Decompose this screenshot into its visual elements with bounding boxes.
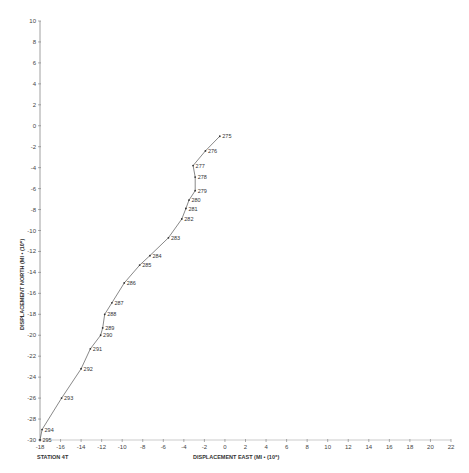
x-tick-label: -18 (36, 444, 45, 450)
y-tick-label: -30 (27, 437, 36, 443)
data-point-marker (123, 282, 125, 284)
x-tick-label: 2 (244, 444, 248, 450)
y-tick-label: -20 (27, 332, 36, 338)
data-point-label: 283 (171, 235, 180, 241)
x-tick-label: -2 (202, 444, 208, 450)
x-tick-label: 0 (223, 444, 227, 450)
data-point-label: 288 (107, 311, 116, 317)
y-tick-label: 2 (33, 102, 37, 108)
data-point-label: 295 (43, 437, 52, 443)
data-point-marker (194, 190, 196, 192)
data-point-label: 287 (114, 300, 123, 306)
y-tick-label: -8 (31, 207, 37, 213)
y-tick-label: -10 (27, 228, 36, 234)
y-tick-label: -6 (31, 186, 37, 192)
x-tick-label: 22 (448, 444, 455, 450)
data-point-label: 285 (142, 262, 151, 268)
y-tick-label: -24 (27, 374, 36, 380)
x-tick-label: 8 (305, 444, 309, 450)
data-point-label: 292 (84, 366, 93, 372)
x-axis-title: DISPLACEMENT EAST (MI • (10⁶) (193, 454, 280, 460)
x-tick-label: 10 (324, 444, 331, 450)
y-tick-label: -26 (27, 395, 36, 401)
x-tick-label: -4 (181, 444, 187, 450)
y-tick-label: 6 (33, 60, 37, 66)
data-point-marker (181, 218, 183, 220)
x-tick-label: 16 (386, 444, 393, 450)
data-point-label: 280 (191, 197, 200, 203)
x-tick-label: 14 (365, 444, 372, 450)
y-tick-label: 8 (33, 39, 37, 45)
data-point-marker (102, 327, 104, 329)
y-tick-label: 0 (33, 123, 37, 129)
data-point-marker (100, 334, 102, 336)
x-tick-label: -14 (77, 444, 86, 450)
data-point-marker (188, 199, 190, 201)
data-point-label: 279 (198, 188, 207, 194)
data-point-marker (185, 208, 187, 210)
axes: 1086420-2-4-6-8-10-12-14-16-18-20-22-24-… (27, 18, 455, 450)
x-tick-label: 18 (407, 444, 414, 450)
data-point-marker (39, 439, 41, 441)
y-tick-label: -18 (27, 311, 36, 317)
data-point-marker (139, 264, 141, 266)
x-tick-label: -16 (56, 444, 65, 450)
data-point-label: 286 (127, 280, 136, 286)
data-point-marker (61, 397, 63, 399)
y-tick-label: -12 (27, 248, 36, 254)
x-tick-label: -8 (140, 444, 146, 450)
data-point-label: 282 (184, 216, 193, 222)
x-tick-label: -10 (118, 444, 127, 450)
data-point-marker (192, 165, 194, 167)
data-point-label: 281 (188, 206, 197, 212)
data-point-label: 278 (198, 174, 207, 180)
y-axis-title: DISPLACEMENT NORTH (MI • (10⁶) (19, 239, 25, 330)
data-point-label: 294 (45, 427, 54, 433)
x-tick-label: 12 (345, 444, 352, 450)
y-tick-label: 4 (33, 81, 37, 87)
data-point-marker (104, 313, 106, 315)
data-point-marker (111, 302, 113, 304)
data-point-label: 277 (196, 163, 205, 169)
y-tick-label: -28 (27, 416, 36, 422)
data-point-label: 284 (152, 253, 161, 259)
data-point-label: 293 (64, 395, 73, 401)
data-point-label: 291 (93, 346, 102, 352)
x-tick-label: -12 (97, 444, 106, 450)
station-label: STATION 4T (37, 454, 69, 460)
data-point-labels: 2752762772782792802812822832842852862872… (39, 133, 231, 443)
x-tick-label: 6 (285, 444, 289, 450)
data-point-marker (219, 135, 221, 137)
data-point-marker (149, 255, 151, 257)
y-tick-label: -22 (27, 353, 36, 359)
data-point-label: 289 (105, 325, 114, 331)
y-tick-label: 10 (29, 18, 36, 24)
x-tick-label: 20 (427, 444, 434, 450)
x-tick-label: 4 (264, 444, 268, 450)
data-point-label: 275 (222, 133, 231, 139)
data-point-marker (194, 176, 196, 178)
data-point-marker (168, 237, 170, 239)
y-tick-label: -4 (31, 165, 37, 171)
data-point-marker (41, 429, 43, 431)
y-tick-label: -16 (27, 290, 36, 296)
chart-canvas: 1086420-2-4-6-8-10-12-14-16-18-20-22-24-… (0, 0, 469, 473)
y-tick-label: -14 (27, 269, 36, 275)
x-tick-label: -6 (161, 444, 167, 450)
data-point-marker (205, 150, 207, 152)
y-tick-label: -2 (31, 144, 37, 150)
data-point-label: 290 (103, 332, 112, 338)
data-point-marker (89, 348, 91, 350)
data-point-label: 276 (208, 148, 217, 154)
data-point-marker (80, 368, 82, 370)
